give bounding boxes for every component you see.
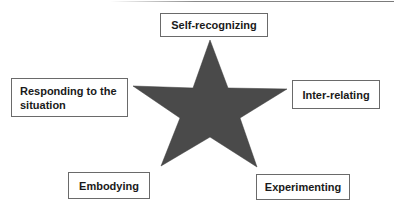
label-text-embodying: Embodying (79, 179, 139, 193)
label-text-experimenting: Experimenting (265, 180, 341, 194)
label-self-recognizing: Self-recognizing (160, 13, 268, 37)
label-experimenting: Experimenting (256, 174, 350, 200)
label-text-inter-relating: Inter-relating (302, 88, 369, 102)
label-text-self-recognizing: Self-recognizing (171, 18, 257, 32)
label-responding-to-the-situation: Responding to the situation (11, 78, 128, 117)
star-polygon (133, 40, 287, 167)
label-embodying: Embodying (68, 172, 150, 199)
label-text-responding: Responding to the situation (20, 84, 117, 112)
label-inter-relating: Inter-relating (292, 80, 380, 109)
